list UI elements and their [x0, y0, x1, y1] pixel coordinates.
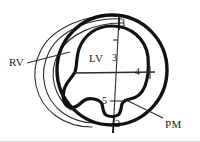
- axis-horizontal-line: [75, 72, 155, 73]
- rv-outer-arc-1: [35, 16, 120, 127]
- tick-marker-2: [113, 115, 114, 133]
- label-pm: PM: [165, 119, 182, 130]
- marker-label-3: 3: [112, 53, 117, 63]
- label-rv: RV: [9, 57, 24, 68]
- label-lv: LV: [89, 53, 103, 64]
- heart-cross-section-figure: RV LV PM 1 2 3 4 5: [0, 0, 200, 142]
- rv-outer-arc-group: [35, 16, 124, 127]
- figure-bottom-rule: [0, 141, 200, 142]
- marker-label-4: 4: [135, 67, 140, 77]
- marker-label-2: 2: [115, 119, 120, 129]
- marker-label-1: 1: [121, 18, 126, 28]
- marker-label-5: 5: [102, 96, 107, 106]
- rv-outer-arc-2: [44, 19, 122, 123]
